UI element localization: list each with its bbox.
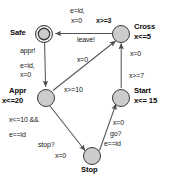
edge-label-appr-stop-sync: stop? [38,141,54,149]
edge-label-cross-safe-assign-1: e=id, [70,7,85,15]
edge-label-safe-appr-assign-1: e=id, [20,62,35,70]
edge-label-safe-appr-sync: appr! [20,47,35,55]
edge-appr-to-cross [53,41,116,91]
state-invariant-appr: x<=20 [2,96,23,105]
edge-safe-to-appr [45,43,46,87]
state-cross[interactable] [112,25,130,43]
edge-label-cross-safe-guard: x>=3 [96,17,111,25]
automaton-diagram: Safe Cross x<=5 Appr x<=20 Start x<= 15 … [0,0,173,182]
edge-label-start-cross-guard: x>=7 [129,72,144,80]
edge-label-safe-appr-assign-2: x=0 [20,71,31,79]
state-appr[interactable] [37,89,55,107]
edge-label-appr-cross-guard: x>=10 [64,86,83,94]
state-label-stop: Stop [81,165,97,174]
edge-label-start-cross-assign: x=0 [130,50,141,58]
state-label-cross: Cross [134,22,155,31]
state-label-safe: Safe [10,28,26,37]
edge-label-cross-safe-sync: leave! [77,36,95,44]
state-invariant-cross: x<=5 [134,32,151,41]
edge-label-appr-cross-assign: x=0 [77,56,88,64]
edge-label-cross-safe-assign-2: x=0 [71,17,82,25]
edge-label-appr-stop-guard-2: e==id [9,131,26,139]
state-stop[interactable] [83,147,101,165]
edge-label-appr-stop-guard-1: x<=10 && [9,116,39,124]
edge-label-stop-start-assign: x=0 [113,119,124,127]
edge-appr-to-stop [50,106,85,151]
state-safe[interactable] [35,25,53,43]
state-start[interactable] [112,89,130,107]
edge-label-appr-stop-assign: x=0 [55,152,66,160]
edge-label-stop-start-guard: e==id [104,140,121,148]
state-label-start: Start [134,86,151,95]
state-label-appr: Appr [9,86,26,95]
edge-label-stop-start-sync: go? [110,130,121,138]
state-invariant-start: x<= 15 [134,96,157,105]
